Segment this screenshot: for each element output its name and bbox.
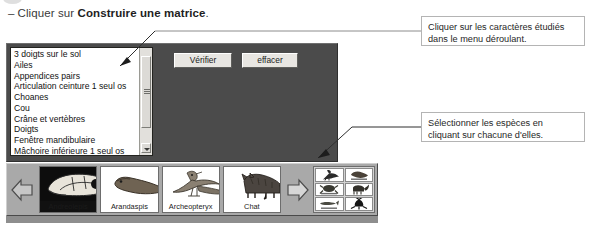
list-item[interactable]: Mâchoire inférieure 1 seul os [11,146,138,156]
list-item[interactable]: Doigts [11,124,138,135]
scroll-down-arrow-icon[interactable] [141,143,151,153]
instruction-prefix: Cliquer sur [18,7,78,19]
listbox-scrollbar[interactable] [139,48,152,155]
annotation-dropdown-callout: Cliquer sur les caractères étudiés dans … [421,16,585,46]
criteria-list[interactable]: 3 doigts sur le sol Ailes Appendices pai… [11,49,138,156]
arrow-right-icon[interactable] [283,164,313,215]
species-card[interactable]: Archeopteryx [162,166,220,213]
annotation-line: Cliquer sur les caractères étudiés [428,21,578,33]
species-card-list: Andreolepis Arandaspis [37,164,283,215]
selected-species-grid[interactable] [313,166,375,213]
application-panel: 3 doigts sur le sol Ailes Appendices pai… [6,43,338,162]
list-item[interactable]: 3 doigts sur le sol [11,49,138,60]
criteria-listbox[interactable]: 3 doigts sur le sol Ailes Appendices pai… [10,47,153,156]
mammal-thumb-icon[interactable] [345,183,374,197]
species-label: Chat [224,202,280,211]
fish-skull-icon [40,167,96,201]
instruction-line: –Cliquer sur Construire une matrice. [8,7,209,19]
amphibian-thumb-icon[interactable] [315,183,344,197]
list-item[interactable]: Choanes [11,92,138,103]
archaeopteryx-icon [163,167,219,201]
instruction-suffix: . [206,7,209,19]
jawless-thumb-icon[interactable] [315,197,344,211]
species-label: Andreolepis [40,202,96,211]
jawless-fish-icon [101,167,157,201]
species-card[interactable]: Chat [223,166,281,213]
annotation-line: Sélectionner les espèces en [428,117,578,129]
arrow-left-icon[interactable] [7,164,37,215]
species-label: Archeopteryx [163,202,219,211]
scrollbar-grip-icon [144,89,150,96]
list-item[interactable]: Cou [11,103,138,114]
annotation-select-callout: Sélectionner les espèces en cliquant sur… [421,112,585,142]
species-card[interactable]: Andreolepis [39,166,97,213]
erase-button[interactable]: effacer [242,53,298,68]
verify-button[interactable]: Vérifier [174,53,232,68]
list-item[interactable]: Articulation ceinture 1 seul os [11,81,138,92]
list-item[interactable]: Ailes [11,60,138,71]
list-item[interactable]: Fenêtre mandibulaire [11,135,138,146]
species-label: Arandaspis [101,202,157,211]
list-item[interactable]: Crâne et vertèbres [11,114,138,125]
cat-icon [224,167,280,201]
reptile-thumb-icon[interactable] [345,197,374,211]
scrollbar-thumb[interactable] [141,56,151,128]
annotation-line: cliquant sur chacune d'elles. [428,129,578,141]
instruction-dash: – [8,7,15,19]
instruction-emphasis: Construire une matrice [78,7,206,19]
list-item[interactable]: Appendices pairs [11,71,138,82]
top-left-artifact [3,0,22,4]
species-strip-shadow [6,216,378,223]
fish-thumb-icon[interactable] [345,168,374,182]
species-card[interactable]: Arandaspis [100,166,158,213]
annotation-line: dans le menu déroulant. [428,33,578,45]
bird-thumb-icon[interactable] [315,168,344,182]
species-strip: Andreolepis Arandaspis [6,163,378,216]
